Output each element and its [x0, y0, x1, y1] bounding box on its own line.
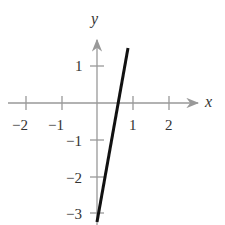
x-tick-label: −2	[12, 117, 28, 133]
x-tick-label: 2	[165, 117, 173, 133]
x-axis-label: x	[204, 93, 212, 110]
y-tick-label: −3	[66, 206, 82, 222]
x-tick-label: −1	[48, 117, 64, 133]
y-tick-label: −2	[66, 170, 82, 186]
x-tick-label: 1	[129, 117, 137, 133]
y-tick-label: −1	[66, 133, 82, 149]
y-axis-label: y	[89, 10, 99, 28]
y-tick-label: 1	[75, 58, 83, 74]
plotted-line	[97, 48, 128, 222]
graph: −2 −1 1 2 1 −1 −2 −3 x y	[0, 0, 225, 225]
